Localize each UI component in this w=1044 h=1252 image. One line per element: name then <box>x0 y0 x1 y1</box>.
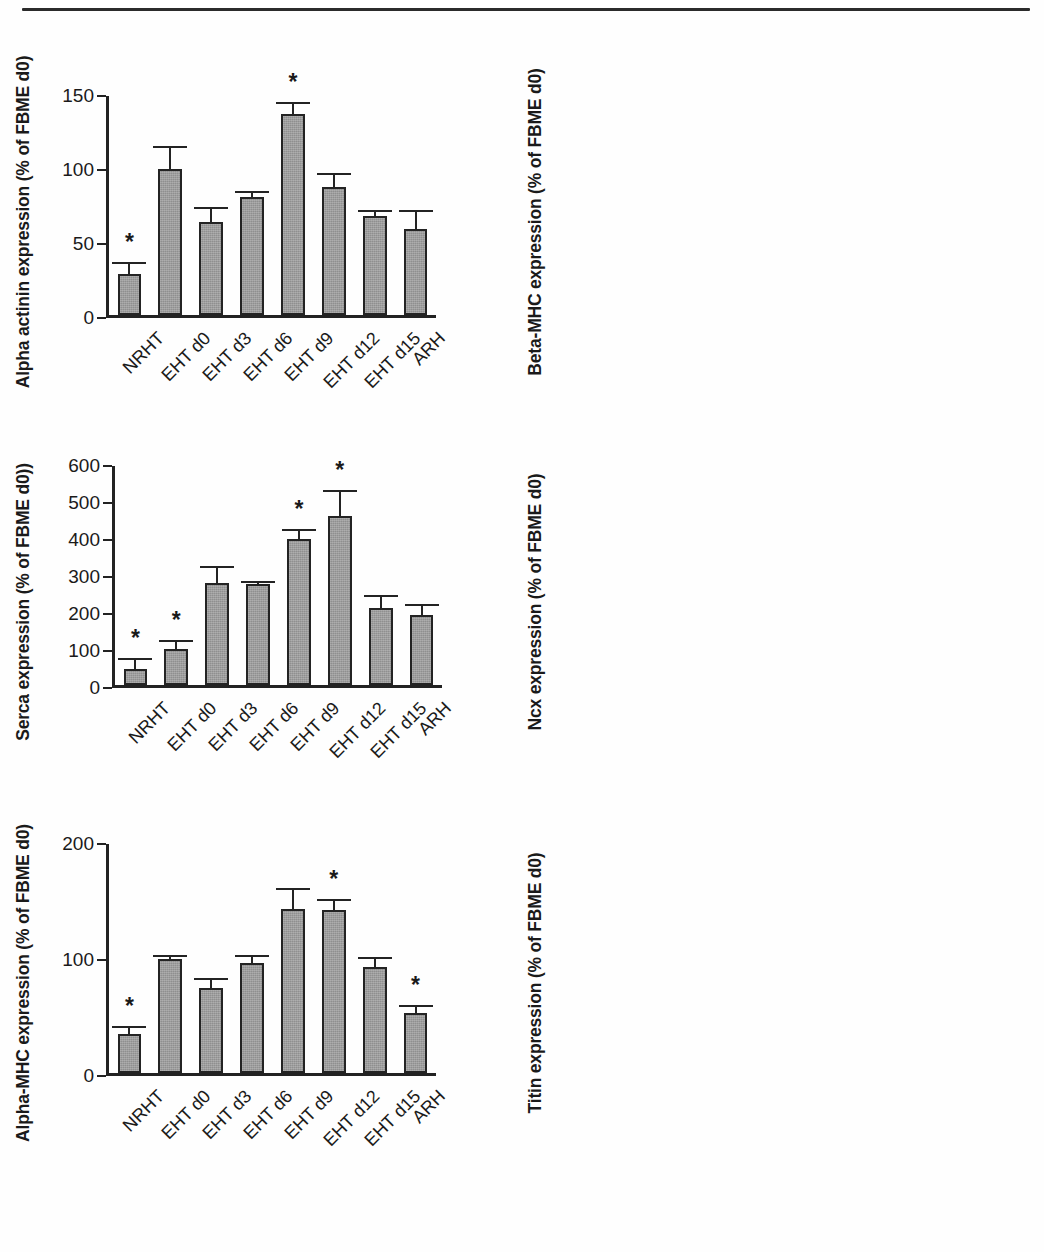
x-axis-line <box>106 1073 436 1076</box>
significance-marker: * <box>294 498 303 521</box>
x-axis-tick-label: NRHT <box>109 1080 150 1081</box>
x-axis-tick-label: EHT d15 <box>354 322 395 323</box>
error-bar-cap <box>235 955 269 957</box>
y-axis-tick-label: 500 <box>68 492 100 514</box>
y-axis-tick <box>103 465 112 467</box>
y-axis-tick-label: 0 <box>83 1065 94 1087</box>
error-bar <box>169 957 171 960</box>
error-bar <box>374 959 376 968</box>
x-axis-tick-label: NRHT <box>115 692 156 693</box>
bar-group <box>401 466 442 685</box>
error-bar-cap <box>235 191 269 193</box>
error-bar-cap <box>276 102 310 104</box>
error-bar-cap <box>323 490 357 492</box>
bar-group: * <box>313 844 354 1073</box>
bar <box>199 222 223 315</box>
y-axis-tick <box>103 687 112 689</box>
x-axis-tick-label: EHT d3 <box>197 692 238 693</box>
y-axis-tick <box>103 502 112 504</box>
error-bar-cap <box>153 955 187 957</box>
header-rule <box>22 8 1030 11</box>
bar-group <box>232 96 273 315</box>
bar-group: * <box>109 96 150 315</box>
y-axis-tick-label: 100 <box>62 949 94 971</box>
y-axis-tick-label: 400 <box>68 529 100 551</box>
x-axis-tick-label: ARH <box>395 1080 436 1081</box>
error-bar-cap <box>317 173 351 175</box>
significance-marker: * <box>329 868 338 891</box>
x-axis-tick-label: EHT d9 <box>273 322 314 323</box>
significance-marker: * <box>125 995 134 1018</box>
error-bar <box>415 212 417 231</box>
figure-panel-grid: Alpha actinin expression (% of FBME d0)0… <box>0 28 1044 1252</box>
bar: * <box>287 539 311 685</box>
error-bar <box>175 642 177 650</box>
error-bar <box>257 583 259 586</box>
bar <box>158 169 182 315</box>
bar-group <box>354 844 395 1073</box>
bar <box>281 909 305 1073</box>
x-axis-tick-label: ARH <box>401 692 442 693</box>
bar: * <box>404 1013 428 1073</box>
error-bar-cap <box>112 262 146 264</box>
bar-group <box>313 96 354 315</box>
y-axis-title: Alpha-MHC expression (% of FBME d0) <box>0 788 46 1178</box>
y-axis-tick <box>97 243 106 245</box>
bar-group: * <box>279 466 320 685</box>
error-bar-cap <box>364 595 398 597</box>
bar <box>246 584 270 685</box>
error-bar <box>421 606 423 617</box>
error-bar <box>374 212 376 218</box>
error-bar-cap <box>159 640 193 642</box>
bar-group: * <box>319 466 360 685</box>
x-axis-tick-label: NRHT <box>109 322 150 323</box>
y-axis-tick <box>103 613 112 615</box>
bar-group: * <box>156 466 197 685</box>
error-bar <box>380 597 382 610</box>
bar <box>410 615 434 685</box>
bar-series: *** <box>109 844 436 1073</box>
x-axis-labels: NRHTEHT d0EHT d3EHT d6EHT d9EHT d12EHT d… <box>109 322 436 323</box>
bar <box>205 583 229 685</box>
y-axis-tick <box>97 843 106 845</box>
bar-group: * <box>395 844 436 1073</box>
y-axis-title-text: Alpha actinin expression (% of FBME d0) <box>13 56 34 389</box>
chart-panel-top-right: Beta-MHC expression (% of FBME d0)050100… <box>512 28 1044 416</box>
bar-group: * <box>109 844 150 1073</box>
y-axis-tick <box>97 317 106 319</box>
bar: * <box>118 1034 142 1073</box>
error-bar <box>292 890 294 912</box>
bar <box>240 963 264 1073</box>
bar-group: * <box>115 466 156 685</box>
error-bar <box>216 568 218 584</box>
bar <box>363 967 387 1073</box>
bar-group <box>150 844 191 1073</box>
y-axis-title: Serca expression (% of FBME d0)) <box>0 416 46 788</box>
bar: * <box>281 114 305 315</box>
x-axis-tick-label: EHT d3 <box>191 322 232 323</box>
error-bar <box>298 531 300 541</box>
significance-marker: * <box>288 71 297 94</box>
chart-panel-middle-right: Ncx expression (% of FBME d0)0100200****… <box>512 416 1044 788</box>
y-axis-title: Beta-MHC expression (% of FBME d0) <box>512 28 558 416</box>
x-axis-tick-label: EHT d9 <box>273 1080 314 1081</box>
significance-marker: * <box>172 609 181 632</box>
x-axis-tick-label: ARH <box>395 322 436 323</box>
y-axis-tick <box>97 169 106 171</box>
y-axis-tick <box>103 539 112 541</box>
y-axis-title-text: Titin expression (% of FBME d0) <box>525 853 546 1114</box>
error-bar <box>339 492 341 518</box>
bar-group <box>395 96 436 315</box>
error-bar-cap <box>241 581 275 583</box>
y-axis-tick <box>97 1075 106 1077</box>
error-bar <box>210 209 212 224</box>
x-axis-labels: NRHTEHT d0EHT d3EHT d6EHT d9EHT d12EHT d… <box>115 692 442 693</box>
x-axis-tick-label: EHT d15 <box>360 692 401 693</box>
y-axis-tick <box>103 576 112 578</box>
y-axis-title-text: Beta-MHC expression (% of FBME d0) <box>525 68 546 375</box>
error-bar-cap <box>317 899 351 901</box>
x-axis-tick-label: EHT d3 <box>191 1080 232 1081</box>
y-axis-tick-label: 0 <box>83 307 94 329</box>
x-axis-tick-label: EHT d6 <box>238 692 279 693</box>
significance-marker: * <box>131 627 140 650</box>
